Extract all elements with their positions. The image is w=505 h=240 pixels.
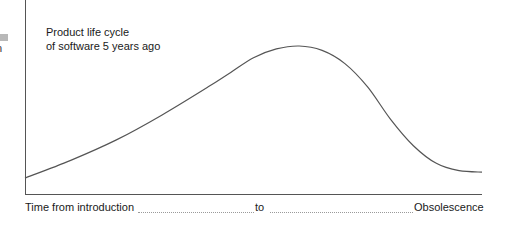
lifecycle-curve (25, 46, 482, 178)
x-axis-label: Time from introduction to Obsolescence (0, 201, 505, 215)
x-axis-label-end: Obsolescence (414, 201, 484, 213)
chart-title-line-2: of software 5 years ago (46, 39, 160, 53)
chart-title: Product life cycle of software 5 years a… (46, 25, 160, 53)
x-axis-label-start: Time from introduction (25, 201, 134, 213)
x-axis-label-middle: to (255, 201, 264, 213)
dotted-leader-1 (138, 212, 254, 213)
chart-title-line-1: Product life cycle (46, 25, 160, 39)
dotted-leader-2 (270, 212, 413, 213)
